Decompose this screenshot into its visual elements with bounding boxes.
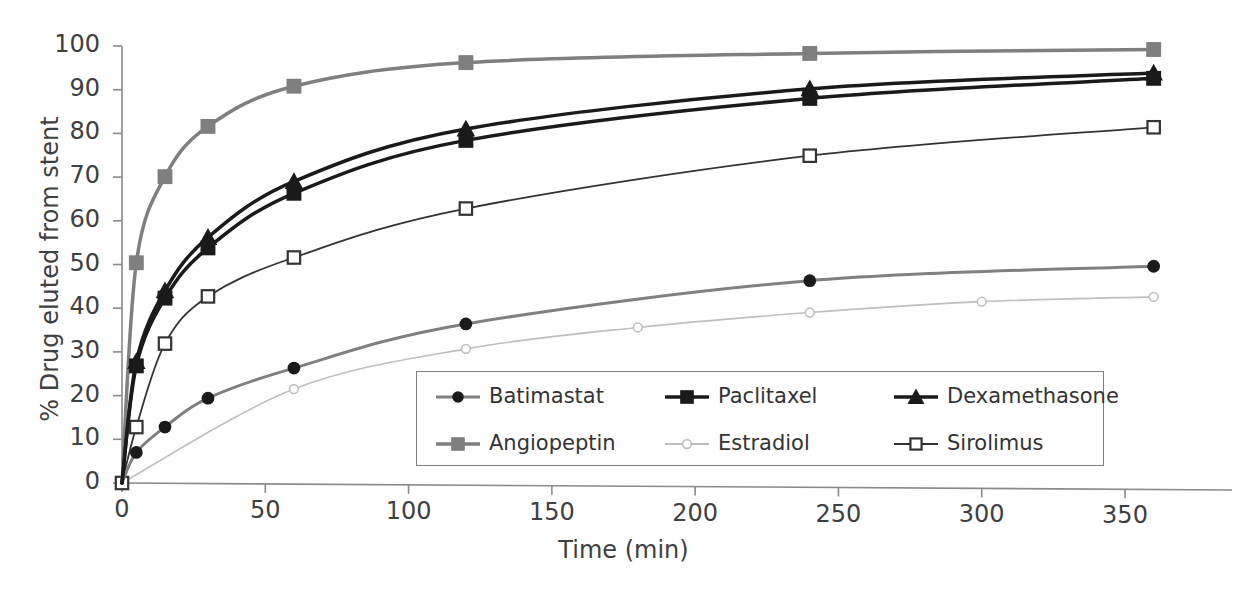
x-tick-label: 300 <box>942 500 1022 528</box>
legend-item-batimastat[interactable]: Batimastat <box>417 384 646 408</box>
legend-row-2: Angiopeptin Estradiol Sirolimus <box>417 419 1103 466</box>
legend-item-sirolimus[interactable]: Sirolimus <box>875 431 1104 455</box>
x-tick-label: 0 <box>82 495 162 523</box>
chart-legend: Batimastat Paclitaxel Dexamethasone Angi… <box>416 371 1104 466</box>
legend-key-angiopeptin <box>435 433 481 453</box>
legend-key-sirolimus <box>893 433 939 453</box>
y-tick-label: 60 <box>30 205 100 233</box>
y-tick-label: 70 <box>30 161 100 189</box>
legend-label-paclitaxel: Paclitaxel <box>718 384 817 408</box>
legend-marker-sirolimus-icon <box>893 433 939 455</box>
x-tick-label: 350 <box>1085 501 1165 529</box>
legend-label-estradiol: Estradiol <box>718 431 810 455</box>
legend-marker-angiopeptin-icon <box>435 433 481 455</box>
x-tick-label: 50 <box>225 496 305 524</box>
y-tick-label: 40 <box>30 292 100 320</box>
x-tick-label: 150 <box>512 498 592 526</box>
legend-label-angiopeptin: Angiopeptin <box>489 431 616 455</box>
legend-key-dexamethasone <box>893 386 939 406</box>
legend-item-dexamethasone[interactable]: Dexamethasone <box>875 384 1119 408</box>
legend-row-1: Batimastat Paclitaxel Dexamethasone <box>417 372 1103 419</box>
y-tick-label: 30 <box>30 336 100 364</box>
y-tick-label: 10 <box>30 423 100 451</box>
legend-label-batimastat: Batimastat <box>489 384 604 408</box>
legend-label-sirolimus: Sirolimus <box>947 431 1044 455</box>
y-tick-label: 90 <box>30 74 100 102</box>
legend-marker-batimastat-icon <box>435 386 481 408</box>
y-tick-label: 80 <box>30 117 100 145</box>
figure-container: % Drug eluted from stent Time (min) 0102… <box>0 0 1240 599</box>
figure-caption <box>10 576 1235 598</box>
y-tick-label: 100 <box>30 30 100 58</box>
legend-item-paclitaxel[interactable]: Paclitaxel <box>646 384 875 408</box>
legend-key-estradiol <box>664 433 710 453</box>
legend-key-paclitaxel <box>664 386 710 406</box>
legend-label-dexamethasone: Dexamethasone <box>947 384 1119 408</box>
legend-item-angiopeptin[interactable]: Angiopeptin <box>417 431 646 455</box>
x-axis-label: Time (min) <box>122 536 1125 564</box>
chart-plot-area <box>0 0 1240 599</box>
legend-item-estradiol[interactable]: Estradiol <box>646 431 875 455</box>
y-tick-label: 0 <box>30 467 100 495</box>
legend-marker-dexamethasone-icon <box>893 386 939 408</box>
legend-marker-estradiol-icon <box>664 433 710 455</box>
y-tick-label: 50 <box>30 249 100 277</box>
legend-marker-paclitaxel-icon <box>664 386 710 408</box>
x-tick-label: 200 <box>655 499 735 527</box>
legend-key-batimastat <box>435 386 481 406</box>
x-tick-label: 250 <box>798 500 878 528</box>
y-tick-label: 20 <box>30 380 100 408</box>
x-tick-label: 100 <box>369 497 449 525</box>
